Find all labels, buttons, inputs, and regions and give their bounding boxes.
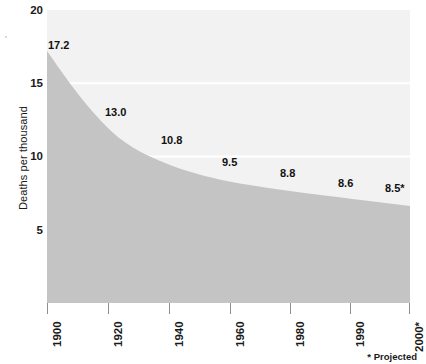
x-tick-label-1920: 1920 (113, 321, 125, 347)
data-label-1960: 9.5 (222, 157, 237, 168)
x-tick-label-1990: 1990 (355, 321, 367, 347)
projected-footnote: * Projected (367, 351, 417, 362)
data-label-1940: 10.8 (161, 135, 182, 146)
data-label-2000: 8.5* (385, 183, 405, 194)
x-tickmark-1900 (47, 303, 48, 314)
data-label-1920: 13.0 (105, 107, 126, 118)
y-tick-label-10: 10 (5, 151, 43, 163)
area-fill-path (47, 51, 410, 303)
x-tickmark-1990 (350, 303, 351, 314)
x-tickmark-1960 (230, 303, 231, 314)
plot-area: 17.2 13.0 10.8 9.5 8.8 8.6 8.5* (47, 10, 410, 303)
x-tickmark-1980 (290, 303, 291, 314)
x-tickmark-2000 (409, 303, 410, 314)
x-tickmark-1940 (169, 303, 170, 314)
y-tick-label-20: 20 (5, 5, 43, 17)
x-tick-label-1940: 1940 (174, 321, 186, 347)
data-label-1900: 17.2 (48, 40, 69, 51)
x-tick-label-2000: 2000* (414, 322, 426, 352)
x-axis: 1900 1920 1940 1960 1980 1990 2000* (0, 303, 419, 364)
data-label-1990: 8.6 (338, 178, 353, 189)
x-tick-label-1900: 1900 (52, 321, 64, 347)
x-tick-label-1980: 1980 (295, 321, 307, 347)
y-tick-label-15: 15 (5, 78, 43, 90)
x-tick-label-1960: 1960 (235, 321, 247, 347)
data-label-1980: 8.8 (280, 168, 295, 179)
x-tickmark-1920 (108, 303, 109, 314)
y-tick-label-5: 5 (5, 225, 43, 237)
